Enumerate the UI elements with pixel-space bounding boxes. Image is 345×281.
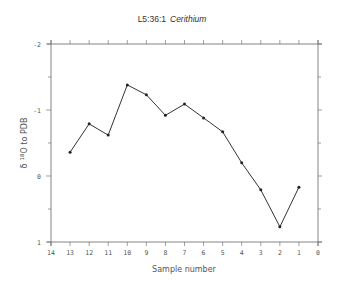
chart-title: L5:36:1Cerithium <box>138 14 207 24</box>
x-tick-label: 8 <box>163 249 167 257</box>
data-point <box>221 130 224 133</box>
x-tick-label: 11 <box>104 249 112 257</box>
x-tick-label: 4 <box>240 249 244 257</box>
x-tick-label: 2 <box>278 249 282 257</box>
data-point <box>107 134 110 137</box>
x-tick-label: 1 <box>297 249 301 257</box>
x-tick-label: 9 <box>144 249 148 257</box>
data-point <box>259 188 262 191</box>
y-tick-label: 0 <box>37 173 41 181</box>
chart-title-taxon: Cerithium <box>170 14 206 24</box>
x-tick-label: 13 <box>66 249 74 257</box>
y-axis-label: δ18O to PDB <box>19 118 29 169</box>
plot-area <box>69 83 301 228</box>
x-tick-label: 12 <box>85 249 93 257</box>
x-tick-label: 6 <box>202 249 206 257</box>
data-point <box>183 103 186 106</box>
series-line <box>70 85 299 227</box>
x-tick-label: 5 <box>221 249 225 257</box>
data-point <box>297 186 300 189</box>
x-tick-label: 0 <box>316 249 320 257</box>
data-point <box>126 83 129 86</box>
x-axis-label: Sample number <box>152 265 216 274</box>
data-point <box>164 114 167 117</box>
data-point <box>240 161 243 164</box>
data-point <box>88 122 91 125</box>
axes <box>47 40 322 246</box>
y-tick-label: 1 <box>37 239 41 247</box>
x-tick-label: 10 <box>123 249 131 257</box>
y-tick-label: -1 <box>33 107 41 115</box>
chart-title-site: L5:36:1 <box>138 14 167 24</box>
y-label-text: O to PDB <box>20 118 29 154</box>
x-tick-label: 3 <box>259 249 263 257</box>
x-tick-label: 14 <box>47 249 55 257</box>
data-point <box>202 116 205 119</box>
data-point <box>145 93 148 96</box>
x-tick-label: 7 <box>183 249 187 257</box>
data-point <box>69 151 72 154</box>
chart: L5:36:1Cerithium 14131211109876543210 -2… <box>0 0 345 281</box>
data-point <box>278 225 281 228</box>
y-label-delta: δ <box>20 163 29 168</box>
y-tick-label: -2 <box>33 41 41 49</box>
